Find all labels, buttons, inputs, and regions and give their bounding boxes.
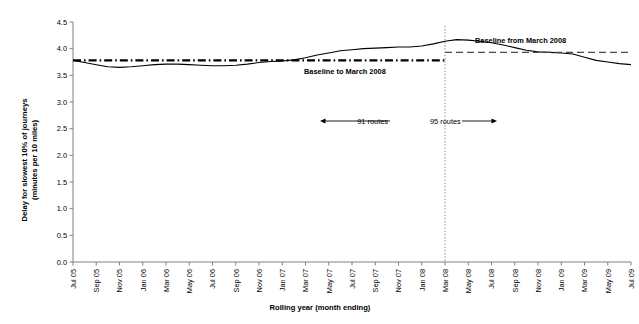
- x-tick-label: May 07: [325, 269, 334, 293]
- x-tick-label: Jul 09: [627, 269, 636, 289]
- x-tick-label: Sep 07: [371, 269, 380, 292]
- x-axis-title: Rolling year (month ending): [270, 303, 371, 312]
- delay-line-chart: 0.00.51.01.52.02.53.03.54.04.5 Jul 05Sep…: [0, 0, 639, 324]
- y-tick-label: 1.0: [57, 204, 67, 213]
- x-tick-label: Sep 06: [232, 269, 241, 292]
- x-tick-label: Mar 09: [580, 269, 589, 292]
- x-tick-label: Jul 05: [69, 269, 78, 289]
- y-tick-label: 2.5: [57, 124, 67, 133]
- x-tick-label: Jan 07: [278, 269, 287, 291]
- routes-left-label: 91 routes: [357, 117, 388, 126]
- x-tick-label: Jul 06: [208, 269, 217, 289]
- x-tick-label: Nov 06: [255, 269, 264, 292]
- x-tick-label: Mar 07: [301, 269, 310, 292]
- x-tick-label: May 06: [185, 269, 194, 293]
- y-tick-label: 3.0: [57, 98, 67, 107]
- y-tick-label: 0.0: [57, 258, 67, 267]
- x-tick-label: Mar 08: [441, 269, 450, 292]
- y-axis-title-line1: Delay for slowest 10% of journeys: [20, 99, 29, 222]
- x-tick-label: Nov 07: [394, 269, 403, 292]
- x-tick-label: Jul 08: [487, 269, 496, 289]
- x-tick-label: Sep 08: [511, 269, 520, 292]
- x-tick-label: Mar 06: [162, 269, 171, 292]
- y-tick-label: 4.5: [57, 18, 67, 27]
- y-tick-label: 0.5: [57, 231, 67, 240]
- x-tick-label: Jan 06: [139, 269, 148, 291]
- chart-container: 0.00.51.01.52.02.53.03.54.04.5 Jul 05Sep…: [0, 0, 639, 324]
- x-tick-label: May 09: [604, 269, 613, 293]
- x-tick-label: Jan 09: [557, 269, 566, 291]
- x-tick-label: Jan 08: [418, 269, 427, 291]
- x-tick-label: Nov 08: [534, 269, 543, 292]
- x-tick-label: May 08: [464, 269, 473, 293]
- y-tick-label: 4.0: [57, 44, 67, 53]
- y-tick-label: 2.0: [57, 151, 67, 160]
- baseline-from-march-2008-label: Baseline from March 2008: [475, 36, 566, 45]
- y-axis-title-line2: (minutes per 10 miles): [30, 119, 39, 200]
- y-tick-label: 1.5: [57, 178, 67, 187]
- baseline-to-march-2008-label: Baseline to March 2008: [304, 67, 386, 76]
- x-tick-label: Nov 05: [115, 269, 124, 292]
- x-tick-label: Sep 05: [92, 269, 101, 292]
- routes-right-label: 95 routes: [430, 117, 461, 126]
- y-tick-label: 3.5: [57, 71, 67, 80]
- x-tick-label: Jul 07: [348, 269, 357, 289]
